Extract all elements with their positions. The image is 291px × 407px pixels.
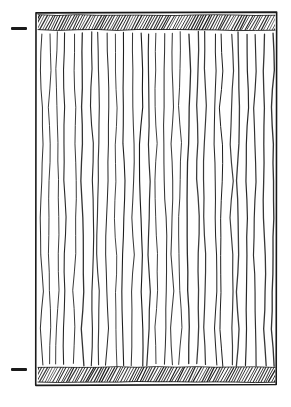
upper-tick-dash (11, 27, 27, 30)
figure-root: Hatched panel with vertical striations H… (0, 0, 291, 407)
lower-tick-dash (11, 368, 27, 371)
figure-canvas: Hatched panel with vertical striations H… (0, 0, 291, 407)
